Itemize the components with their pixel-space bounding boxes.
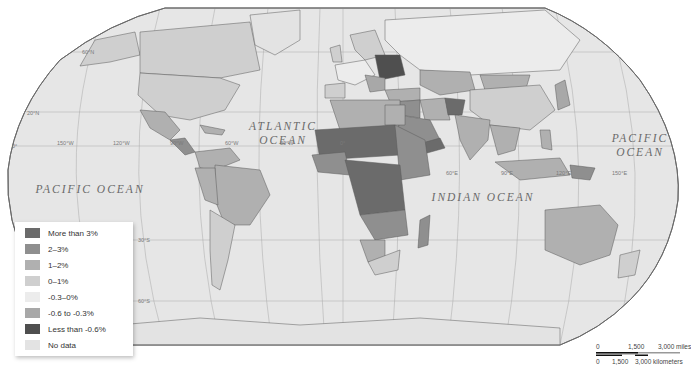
legend-label: Less than -0.6% — [48, 325, 106, 334]
legend-item-no-data: No data — [25, 339, 76, 351]
scale-bar: 0 1,500 3,000 miles 0 1,500 3,000 kilome… — [596, 336, 686, 370]
legend-swatch — [25, 276, 40, 286]
legend-item-neg03-0: -0.3–0% — [25, 291, 78, 303]
legend-item-1-2: 1–2% — [25, 259, 68, 271]
lon-label-60e: 60°E — [446, 170, 458, 176]
legend-swatch — [25, 244, 40, 254]
lat-label-20n: 20°N — [27, 110, 39, 116]
scale-miles-3000: 3,000 miles — [658, 343, 691, 350]
legend-item-less-than-neg06: Less than -0.6% — [25, 323, 106, 335]
legend-swatch — [25, 228, 40, 238]
ocean-label-line: PACIFIC — [600, 131, 680, 145]
country-madagascar — [418, 215, 430, 248]
lon-label-150e: 150°E — [612, 170, 627, 176]
legend: More than 3% 2–3% 1–2% 0–1% -0.3–0% -0.6… — [15, 222, 133, 356]
legend-swatch — [25, 324, 40, 334]
country-iberia — [325, 83, 345, 98]
lon-label-120w: 120°W — [113, 140, 130, 146]
ocean-label-line: OCEAN — [238, 133, 328, 147]
legend-label: -0.3–0% — [48, 293, 78, 302]
lon-label-90w: 90°W — [170, 140, 184, 146]
scale-miles-0: 0 — [596, 343, 600, 350]
lat-label-60n: 60°N — [82, 49, 94, 55]
legend-item-0-1: 0–1% — [25, 275, 68, 287]
lon-label-150w: 150°W — [57, 140, 74, 146]
legend-label: No data — [48, 341, 76, 350]
scale-km-0: 0 — [596, 358, 600, 365]
legend-item-2-3: 2–3% — [25, 243, 68, 255]
legend-swatch — [25, 308, 40, 318]
legend-item-more-than-3: More than 3% — [25, 227, 98, 239]
legend-swatch — [25, 260, 40, 270]
legend-label: 1–2% — [48, 261, 68, 270]
lon-label-90e: 90°E — [501, 170, 513, 176]
country-russia — [385, 10, 580, 75]
ocean-label-pacific-west: PACIFIC OCEAN — [30, 182, 150, 196]
ocean-label-line: OCEAN — [600, 145, 680, 159]
country-philippines — [540, 130, 552, 150]
legend-label: 0–1% — [48, 277, 68, 286]
legend-label: More than 3% — [48, 229, 98, 238]
lon-label-120e: 120°E — [556, 170, 571, 176]
lat-label-0: 0° — [12, 143, 17, 149]
country-afghanistan — [445, 98, 465, 115]
lon-label-0: 0° — [340, 140, 345, 146]
ocean-label-pacific-east: PACIFIC OCEAN — [600, 131, 680, 159]
lat-label-30s: 30°S — [138, 237, 150, 243]
ocean-label-line: ATLANTIC — [238, 119, 328, 133]
ocean-label-indian: INDIAN OCEAN — [428, 190, 538, 204]
country-canada — [140, 22, 260, 78]
scale-miles-1500: 1,500 — [628, 343, 644, 350]
legend-swatch — [25, 292, 40, 302]
scale-km-3000: 3,000 kilometers — [635, 358, 683, 365]
lat-label-60s: 60°S — [138, 298, 150, 304]
ocean-label-line: PACIFIC OCEAN — [30, 182, 150, 196]
legend-item-neg06-neg03: -0.6 to -0.3% — [25, 307, 94, 319]
legend-label: -0.6 to -0.3% — [48, 309, 94, 318]
region-west-africa — [312, 152, 350, 175]
scale-km-1500: 1,500 — [612, 358, 628, 365]
ocean-label-atlantic: ATLANTIC OCEAN — [238, 119, 328, 147]
legend-label: 2–3% — [48, 245, 68, 254]
ocean-label-line: INDIAN OCEAN — [428, 190, 538, 204]
lon-label-60w: 60°W — [225, 140, 239, 146]
country-egypt — [385, 105, 405, 125]
legend-swatch — [25, 340, 40, 350]
